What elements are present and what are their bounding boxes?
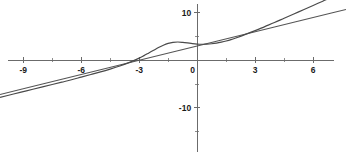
x-tick-label: -9 bbox=[19, 65, 27, 75]
y-tick-label: 10 bbox=[182, 8, 192, 18]
x-tick-label: -6 bbox=[77, 65, 85, 75]
x-tick-label: 6 bbox=[311, 65, 316, 75]
plot-canvas: -9-6-3036-1010 bbox=[0, 0, 346, 160]
chart-figure: -9-6-3036-1010 bbox=[0, 0, 346, 160]
y-tick-label: -10 bbox=[179, 103, 192, 113]
x-tick-label: -3 bbox=[135, 65, 143, 75]
x-tick-label: 3 bbox=[253, 65, 258, 75]
x-tick-label: 0 bbox=[190, 65, 195, 75]
plot-background bbox=[0, 0, 346, 160]
